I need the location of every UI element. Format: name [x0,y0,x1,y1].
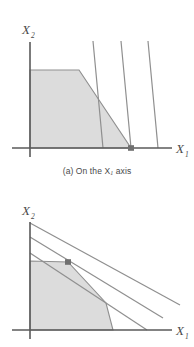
feasible-region-a [30,70,131,148]
x-axis-label-sub-a: 1 [185,150,189,159]
panel-b-chart: X 2 X 1 [0,185,194,347]
objective-line-a-3 [148,41,158,148]
panel-a-chart: X 2 X 1 [0,0,194,165]
y-axis-label-sub-b: 2 [31,212,35,221]
y-axis-label-sub-a: 2 [31,31,35,40]
x-axis-label-a: X [175,141,185,156]
axis-label-x-a: X 1 [175,141,189,159]
axis-label-y-b: X 2 [21,203,35,221]
axis-label-x-b: X 1 [175,323,189,341]
panel-a-svg: X 2 X 1 [0,0,194,165]
objective-line-a-2 [121,41,131,148]
caption-tail: axis [113,166,131,176]
lp-figure: X 2 X 1 (a) On the X1 axis [0,0,194,347]
caption-text: (a) On the X [63,166,111,176]
feasible-region-b [30,261,113,330]
y-axis-label-b: X [21,203,31,218]
x-axis-label-sub-b: 1 [185,332,189,341]
panel-b-svg: X 2 X 1 [0,185,194,347]
panel-a-caption: (a) On the X1 axis [0,166,194,179]
optimal-point-b [65,259,71,265]
x-axis-label-b: X [175,323,185,338]
axis-label-y-a: X 2 [21,22,35,40]
optimal-point-a [128,145,134,151]
y-axis-label-a: X [21,22,31,37]
